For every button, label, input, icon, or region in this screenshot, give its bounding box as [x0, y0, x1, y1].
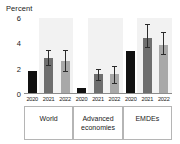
x-tick-world-2022: 2022	[59, 96, 71, 102]
error-cap-high-2022	[112, 66, 117, 67]
x-tick-advanced-economies-2020: 2020	[76, 96, 88, 102]
group-box-world: World	[24, 106, 73, 140]
group-box-advanced-economies: Advanced economies	[73, 106, 122, 140]
y-tick-6: 6	[17, 14, 21, 23]
bar-emdes-2020	[126, 51, 135, 94]
error-cap-high-2022	[63, 50, 68, 51]
error-bar-world-2021	[48, 50, 49, 65]
error-bar-world-2022	[65, 50, 66, 71]
error-bar-advanced-economies-2021	[98, 69, 99, 80]
x-tick-world-2020: 2020	[26, 96, 38, 102]
x-tick-emdes-2022: 2022	[158, 96, 170, 102]
group-label-emdes: EMDEs	[135, 115, 159, 124]
plot-area: 0246	[24, 18, 172, 94]
y-tick-4: 4	[17, 39, 21, 48]
x-tick-emdes-2021: 2021	[142, 96, 154, 102]
error-cap-low-2021	[46, 65, 51, 66]
error-cap-low-2021	[96, 80, 101, 81]
group-label-world: World	[40, 115, 58, 124]
error-cap-high-2021	[145, 24, 150, 25]
error-cap-low-2021	[145, 47, 150, 48]
panel-divider-1	[73, 18, 74, 94]
y-tick-2: 2	[17, 64, 21, 73]
error-cap-low-2022	[112, 83, 117, 84]
y-tick-0: 0	[17, 90, 21, 99]
error-bar-emdes-2021	[147, 24, 148, 47]
x-tick-advanced-economies-2022: 2022	[109, 96, 121, 102]
error-cap-high-2021	[96, 69, 101, 70]
x-axis-baseline	[24, 93, 172, 94]
bar-chart-figure: Percent 0246 202020212022202020212022202…	[0, 0, 180, 144]
group-box-emdes: EMDEs	[123, 106, 172, 140]
error-cap-low-2022	[161, 54, 166, 55]
error-cap-high-2022	[161, 32, 166, 33]
panel-divider-2	[123, 18, 124, 94]
x-tick-advanced-economies-2021: 2021	[92, 96, 104, 102]
group-label-boxes: WorldAdvanced economiesEMDEs	[24, 106, 172, 140]
error-bar-advanced-economies-2022	[114, 66, 115, 84]
x-tick-emdes-2020: 2020	[125, 96, 137, 102]
error-bar-emdes-2022	[163, 32, 164, 54]
bar-world-2020	[28, 71, 37, 94]
y-axis-title: Percent	[6, 4, 33, 13]
x-tick-world-2021: 2021	[43, 96, 55, 102]
group-label-advanced-economies: Advanced economies	[81, 115, 115, 132]
error-cap-high-2021	[46, 50, 51, 51]
error-cap-low-2022	[63, 71, 68, 72]
